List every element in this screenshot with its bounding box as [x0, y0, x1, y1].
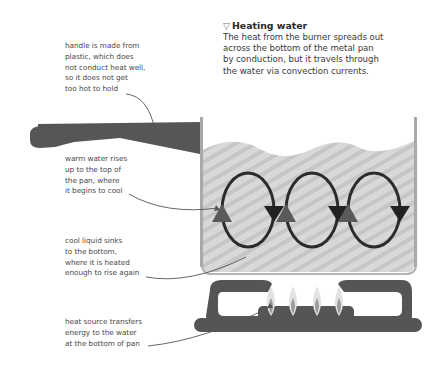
description-line: The heat from the burner spreads out [223, 32, 448, 43]
annotation-cool-liquid: cool liquid sinks to the bottom, where i… [65, 236, 139, 279]
annotation-handle: handle is made from plastic, which does … [65, 41, 145, 95]
description-line: the water via convection currents. [223, 66, 448, 77]
convection-diagram: ▽Heating water The heat from the burner … [0, 0, 448, 370]
annotation-heat-source: heat source transfers energy to the wate… [65, 317, 142, 349]
burner [194, 280, 422, 332]
diagram-description: The heat from the burner spreads out acr… [223, 32, 448, 77]
diagram-title: ▽Heating water [223, 20, 448, 32]
description-line: by conduction, but it travels through [223, 54, 448, 65]
title-block: ▽Heating water The heat from the burner … [223, 20, 448, 77]
water [200, 130, 420, 280]
triangle-down-icon: ▽ [223, 21, 230, 31]
description-line: across the bottom of the metal pan [223, 43, 448, 54]
pan-right-wall [414, 117, 417, 267]
annotation-warm-water: warm water rises up to the top of the pa… [65, 154, 127, 197]
pan-left-wall [200, 117, 203, 267]
